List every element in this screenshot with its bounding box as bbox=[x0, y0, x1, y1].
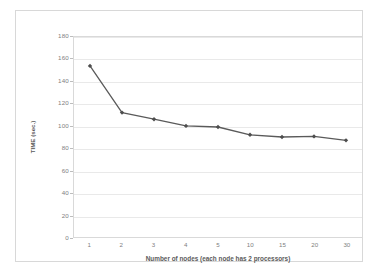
x-axis-tick-label: 30 bbox=[343, 242, 350, 248]
data-point-marker bbox=[280, 135, 284, 139]
y-axis-tick-label: 20 bbox=[29, 212, 69, 218]
y-axis-tick-label: 100 bbox=[29, 123, 69, 129]
y-axis-tick-label: 180 bbox=[29, 33, 69, 39]
chart-figure: TIME (sec.) 020406080100120140160180 123… bbox=[0, 0, 379, 278]
x-axis-tick-label: 10 bbox=[247, 242, 254, 248]
series-markers bbox=[88, 64, 348, 143]
y-axis-tick-label: 120 bbox=[29, 100, 69, 106]
data-point-marker bbox=[184, 124, 188, 128]
y-axis-tick-label: 160 bbox=[29, 55, 69, 61]
y-axis-tick-mark bbox=[70, 238, 73, 239]
data-point-marker bbox=[344, 138, 348, 142]
x-axis-title: Number of nodes (each node has 2 process… bbox=[73, 256, 363, 262]
data-point-marker bbox=[312, 134, 316, 138]
x-axis-tick-label: 20 bbox=[311, 242, 318, 248]
y-axis-tick-label: 140 bbox=[29, 78, 69, 84]
plot-area bbox=[73, 36, 363, 238]
line-series bbox=[74, 37, 362, 237]
x-axis-tick-label: 4 bbox=[184, 242, 187, 248]
x-axis-tick-label: 3 bbox=[152, 242, 155, 248]
y-axis-tick-label: 80 bbox=[29, 145, 69, 151]
x-axis-tick-label: 5 bbox=[216, 242, 219, 248]
y-axis-tick-label: 0 bbox=[29, 235, 69, 241]
y-axis-tick-label: 60 bbox=[29, 168, 69, 174]
data-point-marker bbox=[216, 125, 220, 129]
data-point-marker bbox=[248, 133, 252, 137]
figure-frame: TIME (sec.) 020406080100120140160180 123… bbox=[15, 10, 363, 262]
y-axis-tick-label: 40 bbox=[29, 190, 69, 196]
x-axis-tick-label: 15 bbox=[279, 242, 286, 248]
x-axis-tick-label: 2 bbox=[120, 242, 123, 248]
x-axis-tick-label: 1 bbox=[87, 242, 90, 248]
data-point-marker bbox=[152, 117, 156, 121]
